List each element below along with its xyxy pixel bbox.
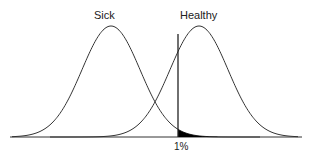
distribution-diagram: [0, 0, 312, 158]
threshold-label: 1%: [174, 141, 188, 152]
healthy-label: Healthy: [180, 9, 217, 21]
healthy-curve: [50, 26, 298, 137]
sick-curve: [12, 26, 260, 137]
sick-label: Sick: [94, 9, 115, 21]
